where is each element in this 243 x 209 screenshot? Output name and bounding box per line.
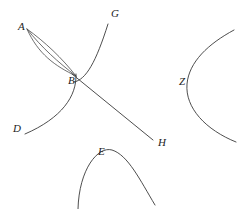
- label-point-a: A: [17, 20, 25, 32]
- curve-diagram-canvas: A B G D H E Z: [0, 0, 243, 209]
- curve-Z-parabola-path: [187, 30, 236, 142]
- label-point-z: Z: [179, 75, 186, 87]
- label-point-e: E: [97, 145, 105, 157]
- curve-B-to-G-path: [74, 24, 108, 82]
- point-labels: A B G D H E Z: [12, 7, 186, 157]
- arc-A-B-upper-path: [27, 29, 76, 76]
- arc-A-B-lower-path: [27, 29, 76, 76]
- arc-A-B-middle-path: [27, 29, 76, 76]
- label-point-b: B: [68, 74, 75, 86]
- label-point-g: G: [111, 7, 119, 19]
- curve-E-arch-path: [78, 150, 155, 209]
- label-point-d: D: [12, 122, 21, 134]
- line-B-to-H-path: [72, 74, 153, 140]
- curve-group-A-to-B: [27, 29, 76, 76]
- label-point-h: H: [157, 136, 167, 148]
